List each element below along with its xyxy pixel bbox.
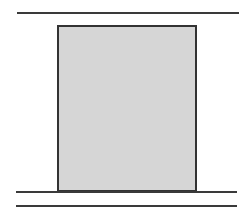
top-boundary-line — [17, 12, 239, 14]
gray-block — [57, 25, 197, 192]
surface-line — [16, 191, 237, 193]
bottom-boundary-line — [16, 205, 237, 207]
diagram-canvas — [0, 0, 250, 216]
